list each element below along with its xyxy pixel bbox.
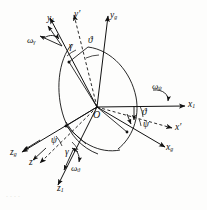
omega-theta-label: ωϑ xyxy=(71,164,80,174)
node-right xyxy=(126,131,129,134)
angle-label-gamma-top: γ xyxy=(69,42,73,52)
omega-rotation-arrows xyxy=(44,35,168,162)
diagram-canvas xyxy=(0,0,207,210)
tick-zg-a xyxy=(24,140,40,150)
angle-label-theta-top: ϑ xyxy=(88,36,93,46)
node-upper xyxy=(68,61,71,64)
chord-surface-down xyxy=(69,62,97,107)
construction-lines xyxy=(66,47,127,144)
axis-label-x1: x1 xyxy=(188,100,195,110)
axis-label-x-prime: x′ xyxy=(175,123,181,133)
chord-equator-right xyxy=(97,107,127,132)
axis-line-xg xyxy=(97,107,165,147)
axis-label-yg: yg xyxy=(110,11,117,21)
euler-angle-diagram: y1 y′ yg x1 x′ xg zg z′ z1 ωγ ωψ ωϑ γ ϑ … xyxy=(0,0,207,210)
triad-ticks xyxy=(24,26,134,170)
node-lower xyxy=(65,125,68,128)
surface-nodes xyxy=(65,61,129,134)
axis-label-y-prime: y′ xyxy=(74,10,80,20)
arc-right-meridian xyxy=(88,47,137,149)
axis-line-yg xyxy=(97,16,108,107)
axis-line-y1 xyxy=(50,18,97,107)
angle-label-gamma-bottom: γ xyxy=(65,148,69,158)
axis-label-xg: xg xyxy=(166,143,173,153)
axis-label-z-prime: z′ xyxy=(29,158,35,168)
angle-label-psi-bottom: ψ xyxy=(51,136,57,146)
axis-label-zg: zg xyxy=(10,148,17,158)
origin-label: O xyxy=(93,110,100,120)
axis-line-x1 xyxy=(97,106,185,107)
axis-line-yprime xyxy=(74,15,97,107)
page-bleed-artifact: .... xyxy=(6,190,202,204)
angle-arc-psi-right xyxy=(139,119,141,126)
angle-label-psi-right: ψ xyxy=(143,120,149,130)
angle-label-theta-right: ϑ xyxy=(142,108,147,118)
angle-arc-theta-top xyxy=(86,55,99,58)
omega-psi-label: ωψ xyxy=(152,82,162,92)
omega-gamma-label: ωγ xyxy=(27,36,36,46)
solid-axes xyxy=(22,16,185,185)
axis-label-y1: y1 xyxy=(47,14,54,24)
